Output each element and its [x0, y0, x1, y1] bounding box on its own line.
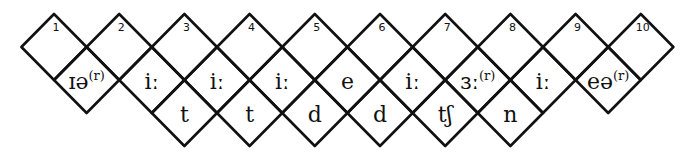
consonant-symbol: d	[308, 104, 322, 126]
consonant-symbol: n	[503, 104, 517, 126]
consonant-symbol: tʃ	[438, 104, 453, 126]
vowel-symbol: e	[341, 71, 354, 93]
position-number: 6	[379, 22, 386, 33]
rhotic-marker: (r)	[479, 68, 495, 83]
position-number: 5	[313, 22, 320, 33]
position-number: 7	[444, 22, 451, 33]
vowel-symbol: iː	[145, 71, 159, 93]
position-number: 2	[118, 22, 125, 33]
phoneme-diamond-grid: 12345678910ɪə(r)iːiːiːeiːɜː(r)iːeə(r)ttd…	[0, 0, 687, 160]
vowel-base: ɜː	[460, 69, 479, 94]
vowel-base: iː	[275, 69, 289, 94]
vowel-symbol: iː	[275, 71, 289, 93]
vowel-base: e	[341, 69, 354, 94]
vowel-symbol: ɜː(r)	[460, 71, 495, 93]
vowel-symbol: ɪə(r)	[68, 71, 104, 93]
position-number: 4	[248, 22, 255, 33]
position-number: 9	[574, 22, 581, 33]
vowel-base: ɪə	[68, 69, 88, 94]
vowel-base: iː	[536, 69, 550, 94]
vowel-base: eə	[587, 69, 613, 94]
consonant-symbol: t	[245, 104, 254, 126]
vowel-base: iː	[145, 69, 159, 94]
vowel-base: iː	[405, 69, 419, 94]
rhotic-marker: (r)	[613, 68, 629, 83]
position-number: 8	[509, 22, 516, 33]
vowel-symbol: eə(r)	[587, 71, 629, 93]
position-number: 1	[53, 22, 60, 33]
vowel-symbol: iː	[536, 71, 550, 93]
consonant-symbol: d	[373, 104, 387, 126]
position-number: 10	[636, 22, 650, 33]
vowel-symbol: iː	[405, 71, 419, 93]
vowel-symbol: iː	[210, 71, 224, 93]
rhotic-marker: (r)	[88, 68, 104, 83]
vowel-base: iː	[210, 69, 224, 94]
position-number: 3	[183, 22, 190, 33]
consonant-symbol: t	[180, 104, 189, 126]
